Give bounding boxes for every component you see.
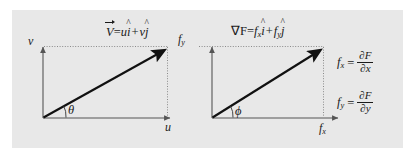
diagram-vector-graphics bbox=[0, 0, 415, 162]
definition-fx-sub: x bbox=[340, 60, 344, 70]
left-i-hat-icon: i bbox=[127, 26, 130, 39]
definition-fy: fy = ∂F ∂y bbox=[337, 90, 373, 116]
right-x-axis-label: fx bbox=[319, 122, 326, 136]
right-gradient-symbol: ∇F bbox=[231, 24, 247, 38]
left-vector-symbol: V bbox=[106, 26, 114, 39]
definition-fy-fraction: ∂F ∂y bbox=[357, 90, 373, 116]
right-y-axis-label-sub: y bbox=[181, 38, 185, 47]
right-vector-arrow bbox=[213, 51, 320, 118]
right-equals: = bbox=[247, 24, 254, 38]
right-projection-lines bbox=[199, 47, 324, 118]
right-angle-arc bbox=[231, 106, 234, 118]
definition-fx: fx = ∂F ∂x bbox=[337, 50, 373, 76]
left-y-axis-label: v bbox=[28, 35, 33, 47]
definition-fy-numerator: ∂F bbox=[357, 90, 373, 103]
right-y-axis-label: fy bbox=[178, 33, 185, 47]
definition-fy-lhs: fy bbox=[337, 96, 344, 110]
left-x-axis-label: u bbox=[165, 121, 171, 133]
left-plus: + bbox=[130, 25, 139, 39]
left-j-hat-icon: j bbox=[145, 26, 148, 39]
figure-root: V=ui+vj v u θ ∇F=fxi+fyj fy fx ϕ fx = ∂F… bbox=[0, 0, 415, 162]
definition-fy-equals: = bbox=[347, 97, 354, 110]
right-x-axis-label-sub: x bbox=[322, 127, 326, 136]
definition-fy-sub: y bbox=[340, 100, 344, 110]
right-angle-label: ϕ bbox=[235, 105, 241, 118]
definition-fx-lhs: fx bbox=[337, 56, 344, 70]
right-i-hat-icon: i bbox=[261, 25, 264, 38]
definition-fy-denominator: ∂y bbox=[357, 103, 373, 115]
right-vector-equation: ∇F=fxi+fyj bbox=[231, 25, 285, 39]
right-plus: + bbox=[265, 24, 274, 38]
left-angle-arc bbox=[64, 106, 67, 118]
left-vector-equation: V=ui+vj bbox=[106, 26, 149, 39]
definition-fx-numerator: ∂F bbox=[357, 50, 373, 63]
definition-fx-fraction: ∂F ∂x bbox=[357, 50, 373, 76]
definition-fx-equals: = bbox=[347, 57, 354, 70]
right-j-hat-icon: j bbox=[281, 25, 284, 38]
left-vector-arrow bbox=[44, 51, 164, 118]
left-equals: = bbox=[114, 25, 121, 39]
definition-fx-denominator: ∂x bbox=[357, 63, 373, 75]
left-angle-label: θ bbox=[68, 104, 74, 117]
